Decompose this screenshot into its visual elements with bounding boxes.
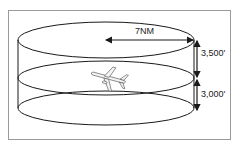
bottom-ellipse bbox=[18, 91, 194, 125]
radius-label: 7NM bbox=[135, 26, 154, 36]
upper-height-label: 3,500' bbox=[201, 48, 225, 58]
airplane-icon bbox=[88, 62, 129, 95]
airspace-cylinder bbox=[0, 0, 239, 149]
lower-height-label: 3,000' bbox=[201, 89, 225, 99]
